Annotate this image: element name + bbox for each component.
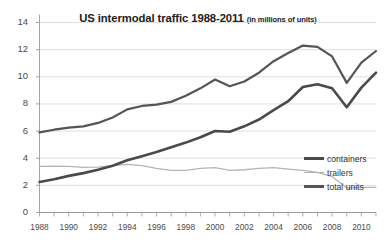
legend-label: total units [327,182,364,192]
x-axis-tick-label: 2008 [317,222,347,232]
legend-label: containers [327,154,367,164]
y-axis-tick-label: 2 [4,180,28,190]
x-axis-tick-label: 1990 [54,222,84,232]
x-axis-ticks [40,213,377,217]
y-axis-tick-label: 8 [4,98,28,108]
legend-swatch-total-units [304,185,324,187]
x-axis-tick-label: 2006 [288,222,318,232]
x-axis-tick-label: 2004 [259,222,289,232]
legend-label: trailers [327,168,353,178]
y-axis-tick-label: 4 [4,153,28,163]
x-axis-tick-label: 2002 [229,222,259,232]
x-axis-tick-label: 2000 [200,222,230,232]
legend-item-containers[interactable]: containers [304,152,367,165]
x-axis-tick-label: 2010 [346,222,376,232]
x-axis-tick-label: 1988 [25,222,55,232]
legend-item-total-units[interactable]: total units [304,180,364,193]
legend-item-trailers[interactable]: trailers [304,166,353,179]
legend-swatch-trailers [304,172,324,173]
legend-swatch-containers [304,157,324,160]
y-axis-tick-label: 0 [4,207,28,217]
x-axis-tick-label: 1998 [171,222,201,232]
y-axis-tick-label: 6 [4,126,28,136]
chart-container: US intermodal traffic 1988-2011 (in mill… [0,0,391,247]
x-axis-tick-label: 1996 [142,222,172,232]
y-axis-tick-label: 12 [4,44,28,54]
x-axis-tick-label: 1992 [83,222,113,232]
y-axis-tick-label: 14 [4,17,28,27]
x-axis-tick-label: 1994 [112,222,142,232]
y-axis-tick-label: 10 [4,71,28,81]
plot-area [0,0,391,247]
